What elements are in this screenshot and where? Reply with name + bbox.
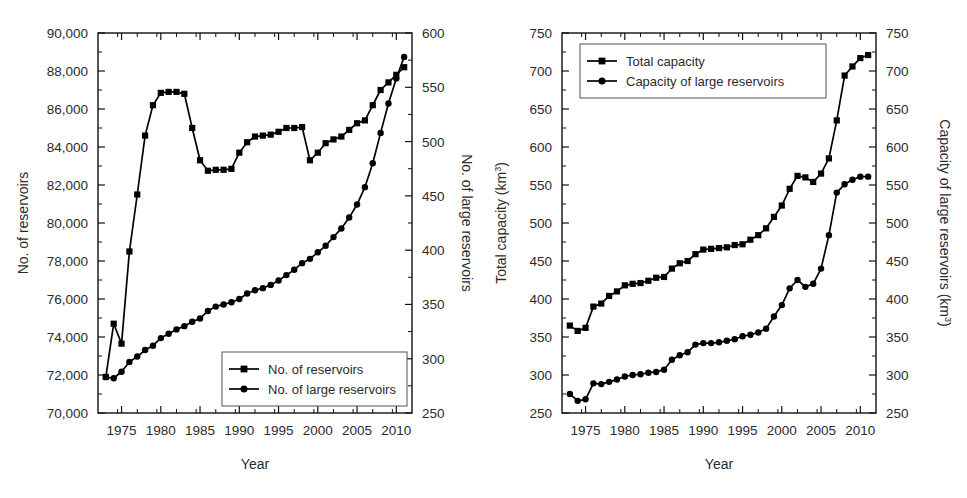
x-axis-title: Year xyxy=(241,456,270,472)
y-tick-label-left: 550 xyxy=(529,178,552,193)
data-point-marker xyxy=(307,157,313,163)
data-point-marker xyxy=(315,150,321,156)
data-point-marker xyxy=(362,184,368,190)
y-tick-label-left: 650 xyxy=(529,102,552,117)
data-point-marker xyxy=(197,157,203,163)
data-point-marker xyxy=(732,242,738,248)
x-tick-label: 1990 xyxy=(688,423,718,438)
chart-panel-right: 1975198019851990199520002005201025030035… xyxy=(484,0,967,498)
data-point-marker xyxy=(732,336,738,342)
data-point-marker xyxy=(126,248,132,254)
data-point-marker xyxy=(299,260,305,266)
legend-label-2: No. of large reservoirs xyxy=(268,382,396,397)
series-group xyxy=(103,54,408,382)
data-point-marker xyxy=(590,380,596,386)
data-point-marker xyxy=(158,335,164,341)
y-tick-label-right: 450 xyxy=(886,254,909,269)
data-point-marker xyxy=(606,293,612,299)
y-tick-label-right: 550 xyxy=(886,178,909,193)
x-tick-label: 1975 xyxy=(107,423,137,438)
y-tick-label-left: 76,000 xyxy=(47,292,88,307)
y-axis-title-right: No. of large reservoirs xyxy=(459,154,475,292)
data-point-marker xyxy=(841,181,847,187)
data-point-marker xyxy=(260,285,266,291)
y-axis-title-left: Total capacity (km3) xyxy=(493,162,509,284)
data-point-marker xyxy=(575,398,581,404)
data-point-marker xyxy=(645,278,651,284)
data-point-marker xyxy=(771,313,777,319)
y-tick-label-right: 300 xyxy=(422,352,445,367)
y-tick-label-right: 500 xyxy=(422,135,445,150)
data-point-marker xyxy=(220,301,226,307)
data-point-marker xyxy=(385,79,391,85)
data-point-marker xyxy=(189,319,195,325)
data-point-marker xyxy=(370,102,376,108)
data-point-marker xyxy=(598,381,604,387)
y-axis-title-right: Capacity of large reservoirs (km3) xyxy=(937,119,953,326)
x-axis-title: Year xyxy=(705,456,734,472)
legend-marker-square-1 xyxy=(241,366,248,373)
data-point-marker xyxy=(794,173,800,179)
data-point-marker xyxy=(150,342,156,348)
x-tick-label: 1980 xyxy=(146,423,176,438)
data-point-marker xyxy=(771,214,777,220)
data-point-marker xyxy=(330,234,336,240)
y-tick-label-right: 400 xyxy=(422,243,445,258)
data-point-marker xyxy=(661,366,667,372)
x-tick-label: 1990 xyxy=(224,423,254,438)
data-point-marker xyxy=(252,133,258,139)
data-point-marker xyxy=(181,91,187,97)
y-tick-label-left: 88,000 xyxy=(47,64,88,79)
data-point-marker xyxy=(802,284,808,290)
legend-label-2: Capacity of large reservoirs xyxy=(626,74,785,89)
series-markers-1 xyxy=(103,64,408,380)
data-point-marker xyxy=(786,285,792,291)
right-chart-svg: 1975198019851990199520002005201025030035… xyxy=(484,0,967,498)
data-point-marker xyxy=(849,63,855,69)
data-point-marker xyxy=(330,136,336,142)
data-point-marker xyxy=(213,303,219,309)
data-point-marker xyxy=(197,315,203,321)
data-point-marker xyxy=(818,171,824,177)
data-point-marker xyxy=(763,325,769,331)
data-point-marker xyxy=(590,304,596,310)
data-point-marker xyxy=(826,232,832,238)
data-point-marker xyxy=(275,277,281,283)
data-point-marker xyxy=(692,341,698,347)
data-point-marker xyxy=(865,52,871,58)
chart-legend: Total capacityCapacity of large reservoi… xyxy=(580,44,826,98)
data-point-marker xyxy=(299,124,305,130)
data-point-marker xyxy=(370,160,376,166)
data-point-marker xyxy=(362,117,368,123)
data-point-marker xyxy=(346,214,352,220)
data-point-marker xyxy=(213,167,219,173)
y-tick-label-left: 84,000 xyxy=(47,140,88,155)
legend-box xyxy=(222,352,407,406)
data-point-marker xyxy=(291,266,297,272)
data-point-marker xyxy=(779,302,785,308)
data-point-marker xyxy=(826,155,832,161)
data-point-marker xyxy=(692,251,698,257)
data-point-marker xyxy=(645,370,651,376)
y-axis-title-left: No. of reservoirs xyxy=(15,172,31,275)
data-point-marker xyxy=(661,274,667,280)
data-point-marker xyxy=(810,281,816,287)
y-tick-label-right: 550 xyxy=(422,80,445,95)
data-point-marker xyxy=(283,272,289,278)
data-point-marker xyxy=(857,55,863,61)
data-point-marker xyxy=(378,87,384,93)
y-tick-label-left: 350 xyxy=(529,330,552,345)
data-point-marker xyxy=(716,245,722,251)
data-point-marker xyxy=(700,340,706,346)
data-point-marker xyxy=(684,349,690,355)
y-tick-label-left: 90,000 xyxy=(47,26,88,41)
data-point-marker xyxy=(173,326,179,332)
data-point-marker xyxy=(181,323,187,329)
x-tick-label: 1980 xyxy=(610,423,640,438)
series-markers-2 xyxy=(567,173,872,404)
data-point-marker xyxy=(260,133,266,139)
data-point-marker xyxy=(275,129,281,135)
data-point-marker xyxy=(637,371,643,377)
y-tick-label-left: 72,000 xyxy=(47,368,88,383)
data-point-marker xyxy=(724,244,730,250)
